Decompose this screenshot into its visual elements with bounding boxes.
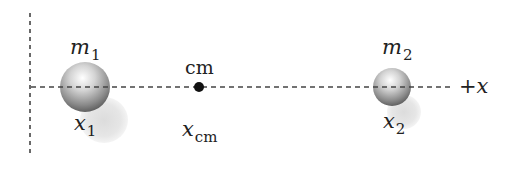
mass-1-label: m1 <box>70 37 100 58</box>
position-1-subscript: 1 <box>87 122 97 140</box>
cm-position-subscript: cm <box>195 128 218 146</box>
mass-1-subscript: 1 <box>91 46 101 64</box>
center-of-mass-diagram: m1 x1 cm xcm m2 x2 +x <box>0 0 507 171</box>
position-1-label: x1 <box>74 113 96 134</box>
diagram-canvas <box>0 0 507 171</box>
position-1-symbol: x <box>74 111 86 135</box>
position-2-subscript: 2 <box>396 120 406 138</box>
center-of-mass-label: cm <box>185 58 214 77</box>
x-axis-label: +x <box>459 76 488 97</box>
mass-2-subscript: 2 <box>403 46 413 64</box>
mass-2-symbol: m <box>382 35 402 59</box>
mass-1-symbol: m <box>70 35 90 59</box>
position-2-label: x2 <box>383 111 405 132</box>
center-of-mass-dot <box>194 82 204 92</box>
mass-2-label: m2 <box>382 37 412 58</box>
center-of-mass-position-label: xcm <box>182 119 217 140</box>
cm-position-symbol: x <box>182 117 194 141</box>
position-2-symbol: x <box>383 109 395 133</box>
